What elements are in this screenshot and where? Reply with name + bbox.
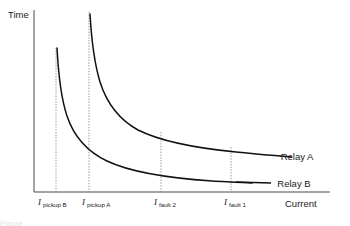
- chart-svg: Time Current Relay A Relay B I pickup B …: [0, 0, 350, 226]
- tick-label-fault-1: I fault 1: [223, 197, 246, 208]
- curve-relay-b: [57, 48, 252, 183]
- label-relay-a: Relay A: [281, 151, 314, 162]
- relay-coordination-figure: Time Current Relay A Relay B I pickup B …: [0, 0, 350, 226]
- tick-label-fault-2: I fault 2: [153, 197, 176, 208]
- tick-symbol-pickup-b: I: [37, 197, 42, 207]
- curve-relay-a: [90, 14, 280, 156]
- page-bleed-text: Figure: [0, 219, 350, 226]
- tick-symbol-pickup-a: I: [81, 197, 86, 207]
- tick-label-pickup-b: I pickup B: [37, 197, 67, 208]
- tick-subscript-fault-1: fault 1: [229, 201, 246, 208]
- y-axis-title: Time: [8, 9, 29, 20]
- x-axis-title: Current: [285, 198, 317, 209]
- tick-subscript-pickup-a: pickup A: [87, 201, 111, 208]
- tick-subscript-pickup-b: pickup B: [43, 201, 67, 208]
- tick-symbol-fault-1: I: [223, 197, 228, 207]
- tick-label-pickup-a: I pickup A: [81, 197, 111, 208]
- tick-symbol-fault-2: I: [153, 197, 158, 207]
- tick-subscript-fault-2: fault 2: [159, 201, 176, 208]
- label-relay-b: Relay B: [277, 178, 310, 189]
